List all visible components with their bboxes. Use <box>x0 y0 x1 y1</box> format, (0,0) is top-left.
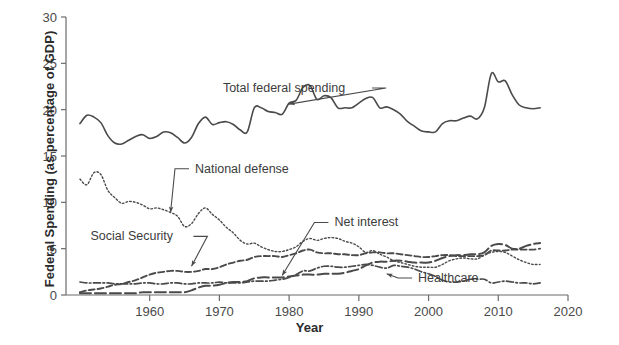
annotation-label-total-federal-spending: Total federal spending <box>223 81 345 95</box>
annotation-leader-healthcare <box>387 274 412 278</box>
y-axis-title: Federal Spending (as percentage of GDP) <box>42 31 57 287</box>
y-axis-title-wrapper: Federal Spending (as percentage of GDP) <box>40 14 58 304</box>
annotation-leader-social-security <box>192 236 208 266</box>
series-line-national-defense <box>80 172 540 268</box>
annotation-label-national-defense: National defense <box>195 162 289 176</box>
chart-container: 0510152025301960197019801990200020102020… <box>0 0 619 345</box>
x-axis-tick-label: 1990 <box>344 304 373 319</box>
x-axis-tick-label: 1960 <box>135 304 164 319</box>
x-axis-tick-label: 2010 <box>484 304 513 319</box>
x-axis-tick-label: 1980 <box>275 304 304 319</box>
x-axis-tick-label: 2000 <box>414 304 443 319</box>
series-line-healthcare <box>80 243 540 293</box>
x-axis-tick-label: 2020 <box>554 304 583 319</box>
annotation-label-healthcare: Healthcare <box>418 271 478 285</box>
line-chart-plot: 0510152025301960197019801990200020102020… <box>0 0 619 345</box>
annotation-label-net-interest: Net interest <box>334 215 398 229</box>
x-axis-tick-label: 1970 <box>205 304 234 319</box>
x-axis-title: Year <box>296 320 323 335</box>
annotation-label-social-security: Social Security <box>90 229 173 243</box>
x-axis-title-wrapper: Year <box>0 318 619 336</box>
annotation-leader-national-defense <box>171 169 189 213</box>
